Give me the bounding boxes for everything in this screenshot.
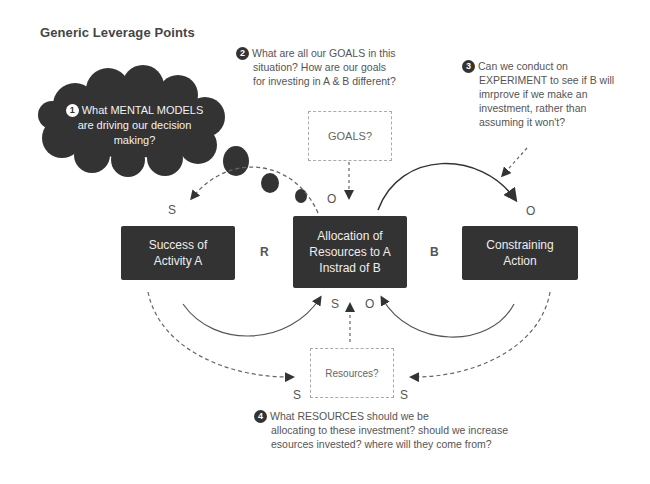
page-title: Generic Leverage Points: [40, 25, 195, 40]
arrow-success-a-to-allocation: [183, 298, 320, 336]
resources-box[interactable]: Resources?: [310, 348, 394, 398]
polarity-allocation-top: O: [327, 192, 336, 206]
polarity-allocation-bottom-right: O: [365, 297, 374, 311]
number-badge-1: 1: [66, 104, 79, 117]
loop-label-reinforcing: R: [260, 245, 269, 259]
number-badge-3: 3: [462, 60, 475, 73]
arrow-experiment: [503, 148, 527, 175]
number-badge-4: 4: [254, 410, 267, 423]
arrow-success-a-to-resources: [148, 292, 292, 377]
polarity-resources-left: S: [293, 388, 301, 402]
polarity-success-a-top: S: [168, 203, 176, 217]
arrow-allocation-to-constraining: [378, 164, 515, 210]
arrow-constraining-to-allocation: [382, 298, 514, 337]
leverage-point-3: 3Can we conduct on EXPERIMENT to see if …: [462, 59, 614, 129]
node-constraining-action[interactable]: Constraining Action: [462, 226, 578, 280]
leverage-point-2: 2What are all our GOALS in this situatio…: [236, 46, 396, 88]
leverage-point-4: 4What RESOURCES should we be allocating …: [254, 409, 508, 451]
polarity-resources-right: S: [400, 388, 408, 402]
loop-label-balancing: B: [430, 245, 439, 259]
node-success-of-activity-a[interactable]: Success of Activity A: [121, 226, 235, 280]
polarity-allocation-bottom-left: S: [331, 297, 339, 311]
thought-bubbles: [223, 146, 307, 203]
number-badge-2: 2: [236, 47, 249, 60]
leverage-point-1: 1What MENTAL MODELS are driving our deci…: [52, 103, 217, 148]
node-allocation-of-resources[interactable]: Allocation of Resources to A Instrad of …: [293, 216, 407, 288]
goals-box[interactable]: GOALS?: [308, 111, 392, 161]
polarity-constraining-top: O: [526, 204, 535, 218]
